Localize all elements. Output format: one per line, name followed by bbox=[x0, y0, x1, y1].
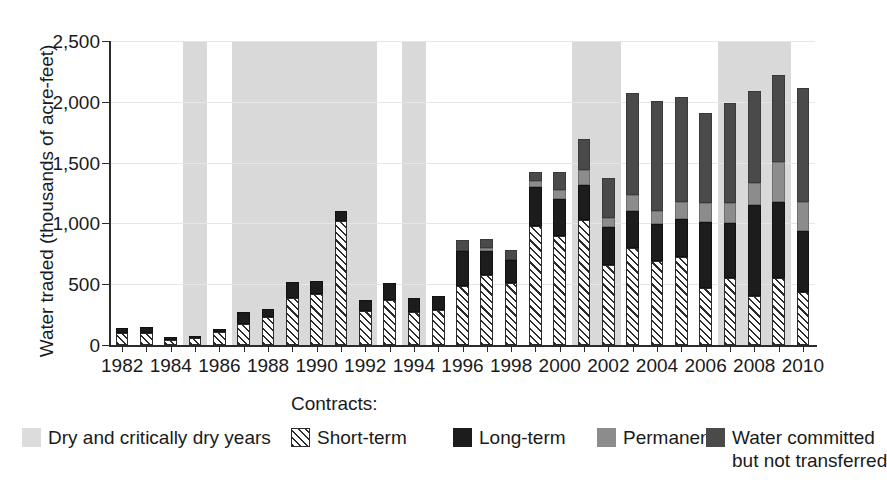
bar-segment-committed-not-transferred bbox=[772, 75, 785, 162]
x-tick-mark bbox=[681, 346, 682, 352]
bar-segment-long-term bbox=[456, 251, 469, 286]
bar-segment-short-term bbox=[335, 221, 348, 345]
legend-swatch-icon bbox=[706, 428, 725, 447]
x-tick-mark bbox=[292, 346, 293, 352]
bar-segment-long-term bbox=[675, 219, 688, 258]
plot-area: 1982198419861988199019921994199619982000… bbox=[110, 41, 815, 345]
bar-segment-long-term bbox=[480, 251, 493, 275]
bar-column[interactable] bbox=[335, 41, 348, 345]
bar-segment-long-term bbox=[359, 300, 372, 311]
bar-segment-short-term bbox=[772, 278, 785, 345]
bar-column[interactable] bbox=[262, 41, 275, 345]
y-axis-line bbox=[109, 41, 111, 346]
y-tick-label: 1,500 bbox=[30, 154, 100, 173]
bar-column[interactable] bbox=[408, 41, 421, 345]
bar-segment-permanent bbox=[748, 183, 761, 205]
legend-swatch-icon bbox=[291, 428, 310, 447]
bar-segment-long-term bbox=[432, 296, 445, 309]
legend-item[interactable]: Dry and critically dry years bbox=[22, 426, 271, 449]
bar-column[interactable] bbox=[164, 41, 177, 345]
bar-segment-permanent bbox=[797, 202, 810, 231]
x-tick-mark bbox=[341, 346, 342, 352]
bar-segment-committed-not-transferred bbox=[602, 178, 615, 218]
bar-segment-short-term bbox=[602, 265, 615, 345]
chart-legend: Contracts: Dry and critically dry yearsS… bbox=[0, 393, 852, 482]
bar-segment-long-term bbox=[699, 222, 712, 288]
bar-segment-short-term bbox=[578, 220, 591, 345]
y-axis-title: Water traded (thousands of acre-feet) bbox=[36, 36, 58, 366]
x-tick-mark bbox=[584, 346, 585, 352]
bar-column[interactable] bbox=[553, 41, 566, 345]
bar-segment-short-term bbox=[553, 236, 566, 345]
bar-segment-short-term bbox=[262, 317, 275, 345]
bar-column[interactable] bbox=[480, 41, 493, 345]
bar-segment-short-term bbox=[748, 296, 761, 345]
bar-column[interactable] bbox=[529, 41, 542, 345]
bar-segment-committed-not-transferred bbox=[675, 97, 688, 202]
bar-column[interactable] bbox=[675, 41, 688, 345]
bar-column[interactable] bbox=[310, 41, 323, 345]
bar-column[interactable] bbox=[383, 41, 396, 345]
x-tick-label: 2010 bbox=[773, 355, 833, 377]
bar-column[interactable] bbox=[772, 41, 785, 345]
bar-column[interactable] bbox=[456, 41, 469, 345]
x-tick-mark bbox=[414, 346, 415, 352]
bar-segment-permanent bbox=[553, 190, 566, 199]
y-tick-label: 2,500 bbox=[30, 32, 100, 51]
bar-column[interactable] bbox=[626, 41, 639, 345]
bar-column[interactable] bbox=[237, 41, 250, 345]
bar-segment-short-term bbox=[237, 324, 250, 345]
legend-label: Short-term bbox=[317, 426, 407, 449]
bar-segment-committed-not-transferred bbox=[699, 113, 712, 203]
bar-segment-long-term bbox=[262, 309, 275, 318]
bar-segment-long-term bbox=[140, 327, 153, 332]
legend-label: Water committedbut not transferred bbox=[732, 426, 887, 472]
bar-segment-committed-not-transferred bbox=[456, 240, 469, 251]
bar-segment-permanent bbox=[529, 181, 542, 187]
bar-segment-long-term bbox=[189, 336, 202, 338]
bar-column[interactable] bbox=[797, 41, 810, 345]
y-tick-mark bbox=[102, 102, 109, 103]
legend-item[interactable]: Short-term bbox=[291, 426, 407, 449]
bar-segment-permanent bbox=[772, 162, 785, 202]
bar-column[interactable] bbox=[651, 41, 664, 345]
bar-column[interactable] bbox=[748, 41, 761, 345]
bar-segment-committed-not-transferred bbox=[748, 91, 761, 182]
bar-column[interactable] bbox=[189, 41, 202, 345]
bar-segment-committed-not-transferred bbox=[553, 172, 566, 190]
y-tick-label: 500 bbox=[30, 275, 100, 294]
bar-column[interactable] bbox=[724, 41, 737, 345]
x-tick-mark bbox=[438, 346, 439, 352]
x-tick-mark bbox=[219, 346, 220, 352]
bar-segment-short-term bbox=[651, 261, 664, 345]
bar-column[interactable] bbox=[505, 41, 518, 345]
bar-segment-long-term bbox=[602, 227, 615, 265]
bar-segment-long-term bbox=[772, 202, 785, 278]
legend-label: Dry and critically dry years bbox=[48, 426, 271, 449]
bar-column[interactable] bbox=[602, 41, 615, 345]
bar-column[interactable] bbox=[213, 41, 226, 345]
legend-item[interactable]: Long-term bbox=[453, 426, 566, 449]
bar-column[interactable] bbox=[578, 41, 591, 345]
x-tick-mark bbox=[633, 346, 634, 352]
legend-item[interactable]: Water committedbut not transferred bbox=[706, 426, 887, 472]
bar-column[interactable] bbox=[699, 41, 712, 345]
bar-segment-long-term bbox=[578, 185, 591, 220]
bar-segment-committed-not-transferred bbox=[529, 172, 542, 181]
bar-column[interactable] bbox=[359, 41, 372, 345]
bar-column[interactable] bbox=[116, 41, 129, 345]
y-tick-label: 2,000 bbox=[30, 93, 100, 112]
bar-segment-short-term bbox=[116, 333, 129, 345]
bar-column[interactable] bbox=[140, 41, 153, 345]
bar-column[interactable] bbox=[286, 41, 299, 345]
legend-item[interactable]: Permanent bbox=[597, 426, 716, 449]
y-tick-mark bbox=[102, 284, 109, 285]
bar-column[interactable] bbox=[432, 41, 445, 345]
bar-segment-committed-not-transferred bbox=[626, 93, 639, 196]
bar-segment-short-term bbox=[408, 312, 421, 345]
bar-segment-long-term bbox=[286, 282, 299, 297]
x-tick-mark bbox=[390, 346, 391, 352]
bar-segment-long-term bbox=[651, 224, 664, 261]
bar-segment-committed-not-transferred bbox=[578, 139, 591, 170]
x-tick-mark bbox=[754, 346, 755, 352]
